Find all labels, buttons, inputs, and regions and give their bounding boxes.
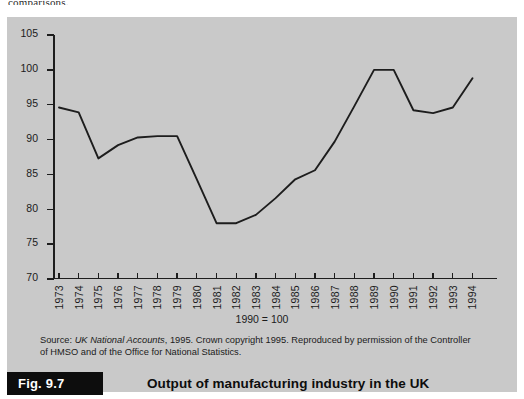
x-tick-label-1984: 1984 xyxy=(270,285,282,310)
x-tick-label-1974: 1974 xyxy=(73,285,85,310)
line-series xyxy=(53,35,497,279)
y-tick-label-95: 95 xyxy=(26,97,38,109)
x-tick-label-1976: 1976 xyxy=(112,285,124,310)
x-tick-label-1975: 1975 xyxy=(92,285,104,310)
x-tick-label-1989: 1989 xyxy=(368,285,380,310)
x-tick-label-1986: 1986 xyxy=(309,285,321,310)
x-tick-label-1980: 1980 xyxy=(191,285,203,310)
x-tick-label-1982: 1982 xyxy=(230,285,242,310)
x-tick-label-1973: 1973 xyxy=(53,285,65,310)
source-note: Source: UK National Accounts, 1995. Crow… xyxy=(40,335,480,358)
x-tick-label-1990: 1990 xyxy=(388,285,400,310)
figure-number-badge: Fig. 9.7 xyxy=(7,372,103,395)
source-publication: UK National Accounts xyxy=(75,335,165,345)
y-tick-label-100: 100 xyxy=(20,62,38,74)
x-tick-label-1977: 1977 xyxy=(132,285,144,310)
source-prefix: Source: xyxy=(40,335,72,345)
x-tick-label-1987: 1987 xyxy=(329,285,341,310)
x-tick-label-1993: 1993 xyxy=(447,285,459,310)
y-tick-label-105: 105 xyxy=(20,27,38,39)
x-tick-label-1994: 1994 xyxy=(466,285,478,310)
y-tick-label-70: 70 xyxy=(26,271,38,283)
figure-caption-title: Output of manufacturing industry in the … xyxy=(147,372,429,395)
x-tick-label-1988: 1988 xyxy=(348,285,360,310)
y-tick-label-90: 90 xyxy=(26,132,38,144)
y-tick-label-75: 75 xyxy=(26,236,38,248)
y-tick-label-85: 85 xyxy=(26,167,38,179)
x-tick-label-1979: 1979 xyxy=(171,285,183,310)
x-tick-label-1983: 1983 xyxy=(250,285,262,310)
x-tick-label-1992: 1992 xyxy=(427,285,439,310)
page-top-text-fragment: comparisons. xyxy=(8,0,69,5)
chart-plot-area: 707580859095100105 197319741975197619771… xyxy=(53,35,497,279)
y-tick-label-80: 80 xyxy=(26,202,38,214)
x-tick-label-1978: 1978 xyxy=(151,285,163,310)
x-tick-label-1991: 1991 xyxy=(407,285,419,310)
series-line xyxy=(59,70,472,223)
chart-base-note: 1990 = 100 xyxy=(7,313,517,325)
figure-panel: 707580859095100105 197319741975197619771… xyxy=(7,17,517,392)
x-tick-label-1985: 1985 xyxy=(289,285,301,310)
x-tick-label-1981: 1981 xyxy=(211,285,223,310)
